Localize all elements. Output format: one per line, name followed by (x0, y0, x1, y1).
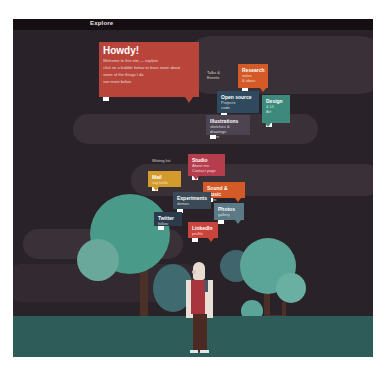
bubble-photos[interactable]: Photos gallery (214, 203, 244, 220)
bubble-howdy[interactable]: Howdy! Welcome to this site — explore cl… (99, 42, 199, 97)
bubble-twitter[interactable]: Twitter follow (154, 212, 182, 226)
bubble-tail (265, 123, 271, 127)
label-line: Writing list (152, 158, 170, 163)
bubble-experiments[interactable]: Experiments demos (173, 192, 211, 209)
label-talks[interactable]: Talks & Events (207, 70, 220, 80)
bubble-line: profile (192, 231, 214, 236)
bubble-tail (260, 88, 266, 92)
bubble-line: sketches & drawings (210, 124, 246, 134)
tree-canopy-right-small (276, 273, 306, 303)
bubble-line: Art (266, 109, 286, 114)
character[interactable] (185, 262, 215, 357)
label-writing[interactable]: Writing list (152, 158, 170, 163)
cloud-top-right (183, 36, 373, 94)
bubble-tail (235, 220, 241, 224)
character-face (192, 270, 196, 274)
bubble-illustrations[interactable]: Illustrations sketches & drawings more (206, 115, 250, 135)
bubble-line: more (210, 134, 246, 139)
window-title[interactable]: Explore (90, 20, 113, 26)
bubble-line: follow (158, 221, 178, 226)
bubble-line: say hello (152, 180, 177, 185)
bubble-tail (185, 97, 193, 103)
bubble-title: Howdy! (103, 45, 195, 57)
bubble-tail (235, 198, 241, 202)
bubble-line: & ideas (242, 78, 264, 83)
bubble-line: Contact page (192, 168, 221, 173)
tree-canopy-small-left (77, 239, 119, 281)
bubble-tail (208, 238, 214, 242)
character-jacket-edge (205, 280, 208, 292)
bubble-linkedin[interactable]: LinkedIn profile (188, 222, 218, 238)
bubble-design[interactable]: Design & UI Art (262, 95, 290, 123)
bubble-open-source[interactable]: Open source Projects code (217, 91, 259, 113)
character-shoe-right (200, 350, 209, 353)
bubble-line: gallery (218, 212, 240, 217)
label-line: Events (207, 75, 220, 80)
app-window: Explore Howdy! Welcome to this site — ex… (13, 19, 373, 357)
bubble-mail[interactable]: Mail say hello (148, 171, 181, 187)
bubble-line: Welcome to this site — explore (103, 57, 195, 64)
bubble-line: demos (177, 201, 207, 206)
bubble-title: Sound & Music (207, 185, 241, 197)
top-bar: Explore (13, 19, 373, 30)
bubble-line: see more below (103, 78, 195, 85)
bubble-tail (153, 187, 159, 191)
bubble-research[interactable]: Research notes & ideas (238, 64, 268, 88)
bubble-line: code (221, 105, 255, 110)
bubble-tail (193, 176, 199, 180)
bubble-line: some of the things I do (103, 71, 195, 78)
character-pants (193, 314, 207, 352)
bubble-studio[interactable]: Studio About me Contact page (188, 154, 225, 176)
bubble-line: click on a bubble below to learn more ab… (103, 64, 195, 71)
character-shoe-left (190, 350, 198, 353)
